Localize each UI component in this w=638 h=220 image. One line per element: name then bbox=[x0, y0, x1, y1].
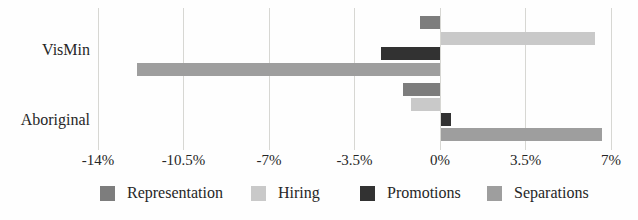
bar-promotions-aboriginal bbox=[441, 113, 451, 126]
bar-hiring-aboriginal bbox=[411, 98, 440, 111]
x-tick-label: -10.5% bbox=[149, 152, 219, 169]
legend-label-representation: Representation bbox=[127, 184, 223, 202]
legend-item-hiring: Hiring bbox=[251, 184, 320, 202]
x-tick-label: -14% bbox=[63, 152, 133, 169]
category-label-aboriginal: Aboriginal bbox=[0, 111, 90, 129]
bar-separations-aboriginal bbox=[441, 128, 602, 141]
legend-swatch-promotions bbox=[360, 186, 375, 201]
legend-swatch-representation bbox=[100, 186, 115, 201]
bar-separations-vismin bbox=[137, 63, 440, 76]
legend-label-hiring: Hiring bbox=[278, 184, 320, 202]
bar-representation-vismin bbox=[420, 16, 440, 29]
x-tick-label: 0% bbox=[405, 152, 475, 169]
x-tick-label: 7% bbox=[576, 152, 638, 169]
gridline bbox=[98, 8, 99, 150]
legend-swatch-hiring bbox=[251, 186, 266, 201]
gridline bbox=[183, 8, 184, 150]
x-tick-label: -3.5% bbox=[320, 152, 390, 169]
legend-item-promotions: Promotions bbox=[360, 184, 461, 202]
gridline bbox=[611, 8, 612, 150]
legend-label-separations: Separations bbox=[514, 184, 589, 202]
category-label-vismin: VisMin bbox=[0, 41, 90, 59]
gridline bbox=[354, 8, 355, 150]
bar-hiring-vismin bbox=[441, 32, 595, 45]
legend-label-promotions: Promotions bbox=[387, 184, 461, 202]
bar-chart: VisMin Aboriginal -14%-10.5%-7%-3.5%0%3.… bbox=[0, 0, 638, 220]
legend-item-representation: Representation bbox=[100, 184, 223, 202]
legend-item-separations: Separations bbox=[487, 184, 589, 202]
bar-representation-aboriginal bbox=[403, 83, 440, 96]
gridline bbox=[269, 8, 270, 150]
x-tick-label: 3.5% bbox=[491, 152, 561, 169]
x-tick-label: -7% bbox=[234, 152, 304, 169]
bar-promotions-vismin bbox=[381, 47, 440, 60]
legend-swatch-separations bbox=[487, 186, 502, 201]
